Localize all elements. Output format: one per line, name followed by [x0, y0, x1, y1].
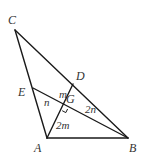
- label-c: C: [8, 13, 17, 27]
- label-a: A: [33, 141, 42, 155]
- label-d: D: [75, 69, 85, 83]
- label-e: E: [17, 85, 26, 99]
- length-label-dg: m: [59, 88, 67, 100]
- segment-bc: [15, 30, 128, 138]
- label-g: G: [66, 92, 75, 106]
- label-b: B: [129, 141, 137, 155]
- triangle-figure: C D E G A B m n 2n 2m: [0, 0, 148, 157]
- length-label-gb: 2n: [85, 103, 97, 115]
- length-label-eg: n: [44, 96, 50, 108]
- geometry-diagram: C D E G A B m n 2n 2m: [0, 0, 148, 157]
- right-angle-mark: [62, 109, 67, 113]
- length-label-ag: 2m: [56, 119, 70, 131]
